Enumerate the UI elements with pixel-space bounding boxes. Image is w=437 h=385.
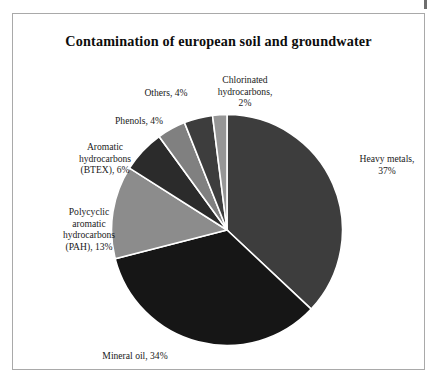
chart-title: Contamination of european soil and groun… (13, 33, 424, 50)
slice-label-others: Others, 4% (131, 87, 201, 99)
slice-label-mineral-oil: Mineral oil, 34% (75, 350, 195, 362)
chart-frame: Contamination of european soil and groun… (12, 13, 425, 370)
slice-label-polycyclic-aromatic-hydrocarbons: Polycyclic aromatic hydrocarbons (PAH), … (37, 206, 141, 252)
slice-label-aromatic-hydrocarbons-btex: Aromatic hydrocarbons (BTEX), 6% (57, 141, 153, 176)
scan-artifact-mark (424, 0, 427, 9)
slice-label-chlorinated-hydrocarbons: Chlorinated hydrocarbons, 2% (199, 74, 291, 109)
slice-label-heavy-metals: Heavy metals, 37% (335, 153, 437, 176)
slice-label-phenols: Phenols, 4% (99, 115, 179, 127)
